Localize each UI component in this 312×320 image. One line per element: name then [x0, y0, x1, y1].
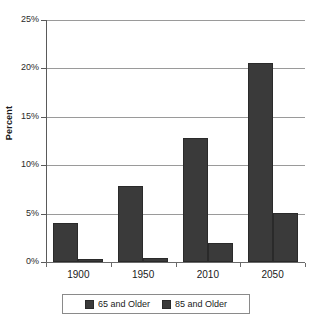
y-tick-label: 20%	[3, 63, 39, 72]
y-tick-label-wrap: 25%	[0, 15, 39, 25]
y-tick-label: 25%	[3, 15, 39, 24]
x-tick-mark	[176, 263, 177, 267]
bar	[273, 213, 298, 262]
bar	[248, 63, 273, 262]
bar	[208, 243, 233, 262]
y-tick-mark-15	[41, 117, 46, 118]
bar	[183, 138, 208, 262]
y-tick-label: 5%	[3, 209, 39, 218]
x-tick-mark	[46, 263, 47, 267]
y-tick-label-wrap: 15%	[0, 112, 39, 122]
legend-item: 85 and Older	[162, 299, 227, 309]
x-tick-label-1950: 1950	[113, 269, 173, 281]
x-tick-mark	[240, 263, 241, 267]
bar-group-1900	[53, 20, 103, 262]
y-tick-label: 15%	[3, 112, 39, 121]
x-tick-label-2010: 2010	[178, 269, 238, 281]
y-tick-label-wrap: 20%	[0, 63, 39, 73]
legend-swatch-icon	[85, 300, 94, 309]
y-tick-mark-20	[41, 68, 46, 69]
y-tick-mark-10	[41, 165, 46, 166]
x-tick-label-2050: 2050	[243, 269, 303, 281]
legend-label: 65 and Older	[98, 299, 150, 309]
y-tick-label-wrap: 5%	[0, 209, 39, 219]
y-axis-title: Percent	[4, 88, 14, 158]
bar	[53, 223, 78, 262]
legend-swatch-icon	[162, 300, 171, 309]
x-tick-label-1900: 1900	[48, 269, 108, 281]
bars-layer	[46, 20, 305, 262]
y-tick-mark-25	[41, 20, 46, 21]
bar-group-2050	[248, 20, 298, 262]
y-tick-label-wrap: 0%	[0, 257, 39, 267]
chart-legend: 65 and Older85 and Older	[62, 294, 250, 314]
y-tick-label: 10%	[3, 160, 39, 169]
legend-label: 85 and Older	[175, 299, 227, 309]
bar-group-2010	[183, 20, 233, 262]
bar-group-1950	[118, 20, 168, 262]
y-tick-mark-5	[41, 214, 46, 215]
bar-chart: Percent 0%5%10%15%20%25% 190019502010205…	[0, 0, 312, 320]
x-tick-mark	[305, 263, 306, 267]
y-tick-label-wrap: 10%	[0, 160, 39, 170]
bar	[118, 186, 143, 262]
x-tick-mark	[111, 263, 112, 267]
legend-item: 65 and Older	[85, 299, 150, 309]
y-tick-label: 0%	[3, 257, 39, 266]
